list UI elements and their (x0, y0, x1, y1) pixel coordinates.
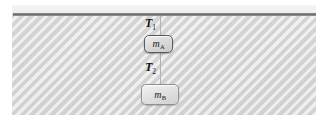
tension-1-label: T1 (145, 17, 156, 29)
tension-1-subscript: 1 (152, 23, 156, 32)
block-a: mA (144, 35, 173, 53)
ceiling-beam (13, 13, 316, 16)
string-middle (160, 50, 161, 86)
block-b-symbol: m (154, 89, 161, 100)
block-a-subscript: A (160, 43, 165, 50)
physics-figure: T1 mA T2 mB (0, 0, 316, 124)
block-b-label: mB (154, 90, 166, 100)
tension-2-label: T2 (145, 61, 156, 73)
tension-2-subscript: 2 (152, 67, 156, 76)
block-b-subscript: B (162, 94, 166, 101)
string-upper (160, 16, 161, 36)
block-b: mB (141, 84, 179, 105)
block-a-symbol: m (153, 38, 160, 49)
block-a-label: mA (153, 39, 165, 49)
